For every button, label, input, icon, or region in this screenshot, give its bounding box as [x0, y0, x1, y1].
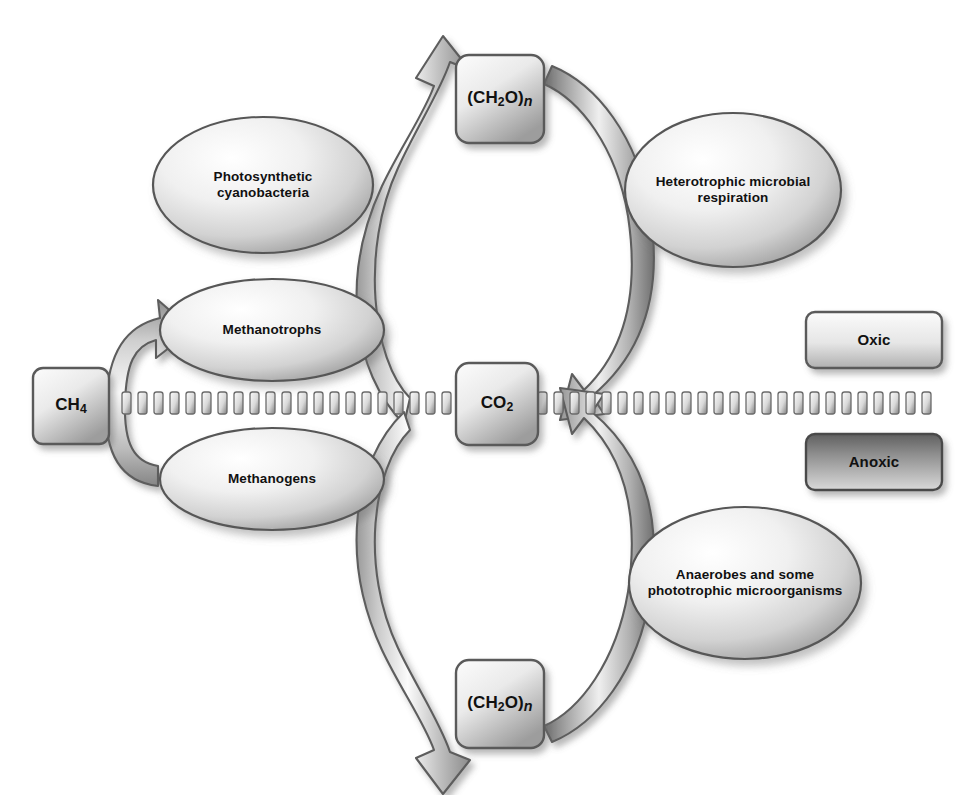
box-carbohydrate-top [456, 55, 544, 143]
arrow-carbohydrate-top-to-co2 [544, 66, 654, 420]
boundary-dash [362, 392, 371, 414]
oval-anaerobes-phototrophic [629, 507, 861, 659]
boundary-dash [442, 392, 451, 414]
boundary-dash [394, 392, 403, 414]
boundary-dash [682, 392, 691, 414]
diagram-canvas [0, 0, 971, 795]
carbon-cycle-diagram: Photosynthetic cyanobacteria Heterotroph… [0, 0, 971, 795]
boundary-dash [186, 392, 195, 414]
boundary-dash [314, 392, 323, 414]
boundary-dash [794, 392, 803, 414]
oval-heterotrophic-microbial-respiration [625, 113, 841, 267]
boundary-dash [650, 392, 659, 414]
boundary-dash [890, 392, 899, 414]
boundary-dash [154, 392, 163, 414]
legend-box-oxic [806, 312, 942, 368]
boundary-dash [810, 392, 819, 414]
boundary-dash [906, 392, 915, 414]
boundary-dash [826, 392, 835, 414]
boundary-dash [554, 392, 563, 414]
boundary-dash [138, 392, 147, 414]
boundary-dash [858, 392, 867, 414]
boundary-dash [282, 392, 291, 414]
boundary-dash [426, 392, 435, 414]
boundary-dash [634, 392, 643, 414]
oval-photosynthetic-cyanobacteria [153, 117, 373, 253]
oval-methanogens [160, 428, 384, 530]
boundary-dash [778, 392, 787, 414]
boundary-dash [250, 392, 259, 414]
boundary-dash [330, 392, 339, 414]
boundary-dash [842, 392, 851, 414]
boundary-dash [266, 392, 275, 414]
boundary-dash [570, 392, 579, 414]
boundary-dash [746, 392, 755, 414]
boundary-dash [698, 392, 707, 414]
boundary-dash [410, 392, 419, 414]
boundary-dash [234, 392, 243, 414]
boundary-dash [666, 392, 675, 414]
boundary-dash [378, 392, 387, 414]
boundary-dash [202, 392, 211, 414]
box-methane [33, 368, 109, 444]
boundary-dash [346, 392, 355, 414]
legend-box-anoxic [806, 434, 942, 490]
boundary-dash [586, 392, 595, 414]
oval-methanotrophs [160, 279, 384, 381]
boundary-dash [538, 392, 547, 414]
boundary-dash [618, 392, 627, 414]
boundary-dash [730, 392, 739, 414]
box-carbon-dioxide [456, 363, 538, 445]
boundary-dash [218, 392, 227, 414]
boundary-dash [762, 392, 771, 414]
arrow-co2-to-carbohydrate-top [357, 36, 470, 424]
boundary-dash [874, 392, 883, 414]
boundary-dash [602, 392, 611, 414]
boundary-dash [922, 392, 931, 414]
boundary-dash [170, 392, 179, 414]
boundary-dash [122, 392, 131, 414]
box-carbohydrate-bottom [456, 660, 544, 748]
boundary-dash [714, 392, 723, 414]
boundary-dash [298, 392, 307, 414]
